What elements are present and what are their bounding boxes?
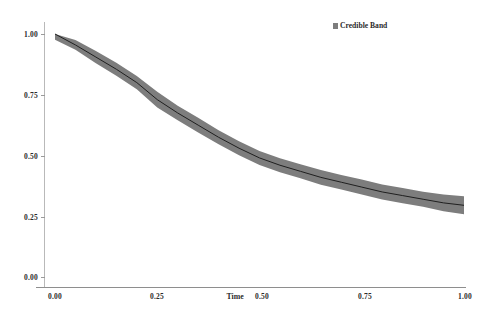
posterior-mean-line xyxy=(55,34,464,205)
chart-figure: 1.00 0.75 0.50 0.25 0.00 0.00 0.25 0.50 … xyxy=(0,0,487,319)
credible-band-region xyxy=(55,34,464,214)
plot-area xyxy=(0,0,487,319)
